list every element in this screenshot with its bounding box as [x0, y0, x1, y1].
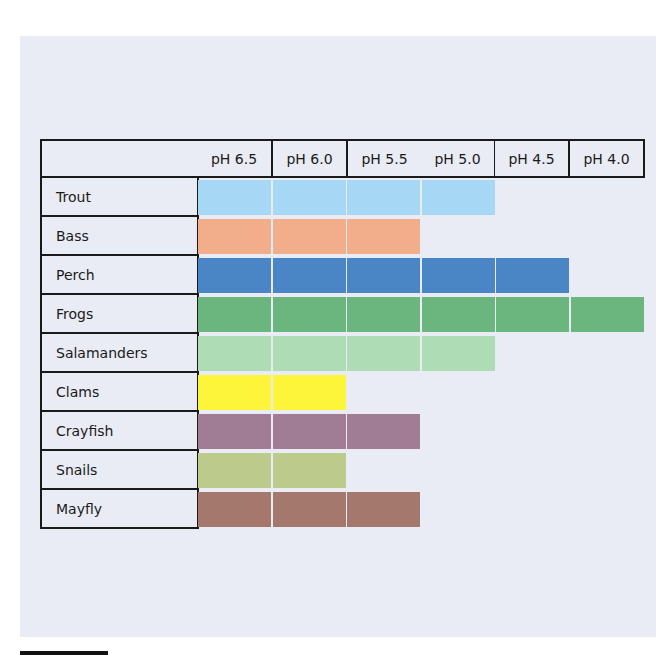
header-ph-5-0: pH 5.0	[421, 139, 496, 178]
tolerance-cell	[273, 258, 346, 293]
tolerance-cell	[273, 375, 346, 410]
tolerance-cell	[422, 258, 495, 293]
tolerance-cell	[273, 453, 346, 488]
header-ph-5-5: pH 5.5	[348, 139, 423, 178]
tolerance-cell	[422, 297, 495, 332]
table-row: Bass	[40, 217, 650, 256]
tolerance-cell	[198, 375, 271, 410]
tolerance-cell	[347, 336, 420, 371]
tolerance-cell	[422, 336, 495, 371]
header-ph-4-0: pH 4.0	[570, 139, 645, 178]
row-label: Mayfly	[40, 490, 199, 529]
row-label: Crayfish	[40, 412, 199, 451]
tolerance-cell	[571, 297, 644, 332]
footnote-rule	[20, 651, 108, 655]
tolerance-cell	[273, 180, 346, 215]
row-label: Trout	[40, 178, 199, 217]
tolerance-cell	[496, 258, 569, 293]
row-label: Salamanders	[40, 334, 199, 373]
table-row: Snails	[40, 451, 650, 490]
header-ph-6-0: pH 6.0	[273, 139, 348, 178]
table-row: Mayfly	[40, 490, 650, 529]
header-ph-4-5: pH 4.5	[495, 139, 570, 178]
table-row: Clams	[40, 373, 650, 412]
row-label: Bass	[40, 217, 199, 256]
tolerance-cell	[198, 219, 271, 254]
table-row: Trout	[40, 178, 650, 217]
row-label: Snails	[40, 451, 199, 490]
tolerance-cell	[198, 414, 271, 449]
table-row: Crayfish	[40, 412, 650, 451]
header-ph-6-5: pH 6.5	[197, 139, 273, 178]
tolerance-cell	[273, 219, 346, 254]
tolerance-cell	[198, 453, 271, 488]
row-label: Frogs	[40, 295, 199, 334]
tolerance-cell	[347, 180, 420, 215]
tolerance-cell	[198, 297, 271, 332]
tolerance-cell	[347, 414, 420, 449]
row-label: Perch	[40, 256, 199, 295]
tolerance-cell	[273, 336, 346, 371]
row-label: Clams	[40, 373, 199, 412]
tolerance-cell	[347, 258, 420, 293]
tolerance-cell	[347, 297, 420, 332]
tolerance-cell	[496, 297, 569, 332]
tolerance-cell	[198, 336, 271, 371]
tolerance-cell	[198, 258, 271, 293]
table-row: Perch	[40, 256, 650, 295]
tolerance-cell	[347, 219, 420, 254]
tolerance-cell	[273, 297, 346, 332]
tolerance-cell	[422, 180, 495, 215]
tolerance-cell	[198, 492, 271, 527]
table-row: Salamanders	[40, 334, 650, 373]
tolerance-cell	[347, 492, 420, 527]
tolerance-cell	[198, 180, 271, 215]
tolerance-cell	[273, 492, 346, 527]
table-row: Frogs	[40, 295, 650, 334]
tolerance-cell	[273, 414, 346, 449]
header-corner-cell	[40, 139, 199, 178]
